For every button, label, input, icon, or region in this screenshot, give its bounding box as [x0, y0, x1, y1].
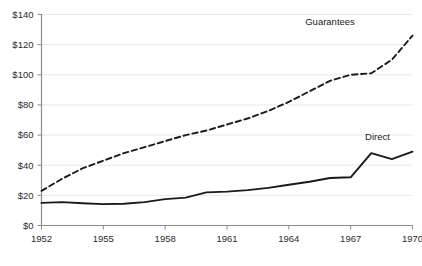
series-line-direct	[42, 152, 413, 204]
series-labels: GuaranteesDirect	[305, 16, 390, 142]
y-axis-ticks: $0$20$40$60$80$100$120$140	[12, 9, 41, 231]
y-tick-label-120: $120	[12, 39, 33, 50]
x-tick-label-1955: 1955	[93, 233, 114, 244]
line-chart: $0$20$40$60$80$100$120$140 1952195519581…	[0, 0, 422, 266]
x-tick-label-1964: 1964	[278, 233, 299, 244]
y-tick-label-80: $80	[18, 99, 34, 110]
gridlines	[42, 15, 413, 196]
y-tick-label-60: $60	[18, 129, 34, 140]
x-tick-label-1952: 1952	[31, 233, 52, 244]
y-tick-label-0: $0	[23, 220, 34, 231]
series-label-direct: Direct	[365, 131, 390, 142]
series-label-guarantees: Guarantees	[305, 16, 355, 27]
y-tick-label-40: $40	[18, 160, 34, 171]
x-tick-label-1970: 1970	[402, 233, 422, 244]
x-tick-label-1961: 1961	[216, 233, 237, 244]
x-tick-label-1967: 1967	[340, 233, 361, 244]
y-tick-label-20: $20	[18, 190, 34, 201]
axes	[42, 14, 413, 226]
y-tick-label-140: $140	[12, 9, 33, 20]
x-axis-ticks: 1952195519581961196419671970	[31, 226, 422, 244]
data-series	[42, 36, 413, 205]
chart-canvas: $0$20$40$60$80$100$120$140 1952195519581…	[0, 0, 422, 266]
x-tick-label-1958: 1958	[155, 233, 176, 244]
series-line-guarantees	[42, 36, 413, 191]
y-tick-label-100: $100	[12, 69, 33, 80]
